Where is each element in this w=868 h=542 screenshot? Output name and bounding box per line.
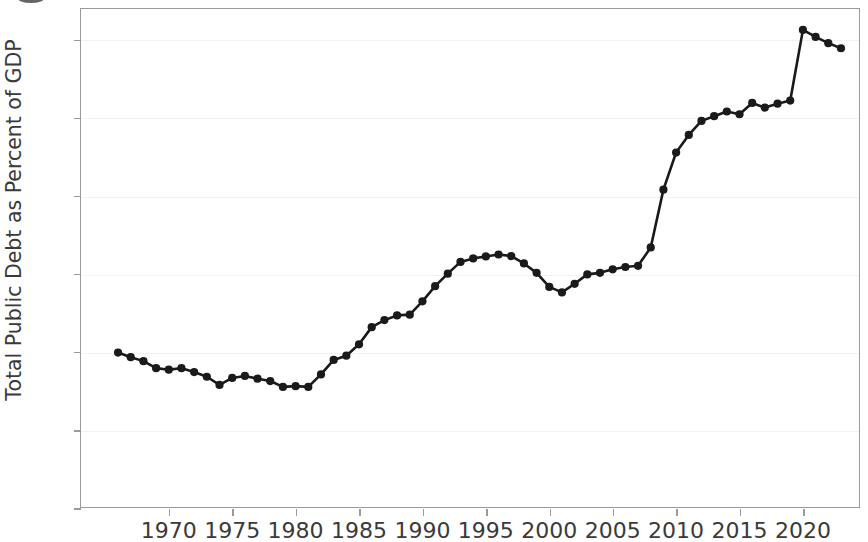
gridline-y [81, 431, 859, 432]
x-tick-mark [169, 509, 170, 516]
y-tick-mark [74, 352, 81, 353]
y-tick-mark [74, 118, 81, 119]
gridline-y [81, 275, 859, 276]
x-tick-mark [676, 509, 677, 516]
y-tick-mark [74, 508, 81, 509]
x-tick-mark [803, 509, 804, 516]
x-tick-label: 2020 [758, 520, 848, 542]
x-tick-mark [232, 509, 233, 516]
x-tick-mark [359, 509, 360, 516]
gridline-y [81, 40, 859, 41]
x-tick-mark [613, 509, 614, 516]
x-tick-mark [486, 509, 487, 516]
gridline-y [81, 118, 859, 119]
plot-area [80, 8, 860, 508]
x-tick-mark [423, 509, 424, 516]
gridline-y [81, 353, 859, 354]
y-tick-mark [74, 196, 81, 197]
x-tick-mark [740, 509, 741, 516]
y-axis-label: Total Public Debt as Percent of GDP [2, 0, 26, 470]
x-tick-mark [550, 509, 551, 516]
y-tick-mark [74, 430, 81, 431]
gridline-y [81, 197, 859, 198]
y-tick-mark [74, 274, 81, 275]
y-tick-mark [74, 40, 81, 41]
x-tick-mark [296, 509, 297, 516]
